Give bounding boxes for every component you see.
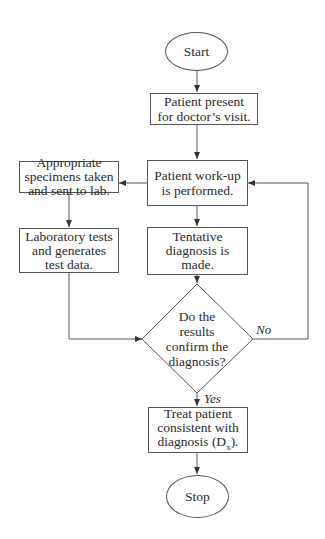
stop-label: Stop [185,489,210,505]
treat-patient-label: Treat patient consistent with diagnosis … [157,407,238,454]
tentative-diagnosis-label: Tentative diagnosis is made. [166,230,229,272]
lab-tests-label: Laboratory tests and generates test data… [25,230,112,272]
workup-node: Patient work-up is performed. [147,160,248,206]
patient-present-node: Patient present for doctor’s visit. [150,93,258,125]
decision-label: Do the results confirm the diagnosis? [166,309,229,369]
tentative-diagnosis-node: Tentative diagnosis is made. [147,227,248,275]
workup-label: Patient work-up is performed. [154,168,241,198]
patient-present-label: Patient present for doctor’s visit. [157,94,250,124]
treat-patient-node: Treat patient consistent with diagnosis … [148,407,248,453]
no-label: No [256,322,271,338]
specimens-node: Appropriate specimens taken and sent to … [19,161,119,193]
specimens-label: Appropriate specimens taken and sent to … [25,156,114,198]
lab-tests-node: Laboratory tests and generates test data… [19,228,119,273]
yes-label: Yes [204,391,221,407]
stop-node: Stop [166,475,229,518]
start-label: Start [184,44,210,60]
decision-label-wrap: Do the results confirm the diagnosis? [157,309,237,369]
start-node: Start [165,32,228,71]
